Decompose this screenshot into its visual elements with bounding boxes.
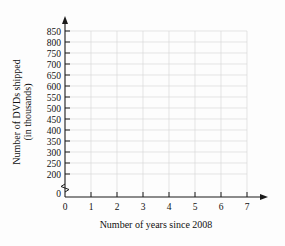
chart-figure: 850 800 750 700 650 600 550 500 450 400 … (0, 0, 285, 246)
y-tick-label-300: 300 (47, 148, 62, 158)
x-tick-label-6: 6 (219, 202, 224, 212)
y-tick-label-650: 650 (47, 71, 62, 81)
y-axis (62, 16, 68, 197)
vertical-gridlines (91, 31, 247, 197)
y-tick-label-450: 450 (47, 115, 62, 125)
x-tick-labels: 0 1 2 3 4 5 6 7 (63, 202, 250, 212)
y-tick-label-600: 600 (47, 82, 62, 92)
horizontal-gridlines (65, 31, 247, 174)
y-tick-label-750: 750 (47, 49, 62, 59)
x-tick-label-2: 2 (115, 202, 120, 212)
coordinate-grid-chart: 850 800 750 700 650 600 550 500 450 400 … (0, 0, 285, 246)
y-tick-label-850: 850 (47, 27, 62, 37)
x-tick-label-4: 4 (167, 202, 172, 212)
x-tick-marks (91, 192, 247, 197)
x-axis-arrow-icon (260, 194, 268, 200)
y-axis-arrow-icon (62, 16, 68, 24)
x-tick-label-7: 7 (245, 202, 250, 212)
y-tick-label-700: 700 (47, 60, 62, 70)
y-axis-title-line1: Number of DVDs shipped (11, 59, 22, 164)
y-tick-label-400: 400 (47, 126, 62, 136)
y-tick-label-200: 200 (47, 170, 62, 180)
y-axis-title: Number of DVDs shipped (in thousands) (11, 59, 34, 164)
x-axis (65, 194, 268, 200)
y-tick-label-550: 550 (47, 93, 62, 103)
y-tick-labels: 850 800 750 700 650 600 550 500 450 400 … (47, 27, 62, 199)
y-axis-title-line2: (in thousands) (22, 84, 34, 141)
y-tick-label-250: 250 (47, 159, 62, 169)
y-tick-marks (65, 31, 70, 174)
x-axis-title: Number of years since 2008 (100, 219, 213, 230)
x-tick-label-1: 1 (89, 202, 94, 212)
y-tick-label-0: 0 (56, 189, 61, 199)
x-tick-label-3: 3 (141, 202, 146, 212)
x-tick-label-0: 0 (63, 202, 68, 212)
y-tick-label-350: 350 (47, 137, 62, 147)
y-tick-label-500: 500 (47, 104, 62, 114)
x-tick-label-5: 5 (193, 202, 198, 212)
y-tick-label-800: 800 (47, 38, 62, 48)
